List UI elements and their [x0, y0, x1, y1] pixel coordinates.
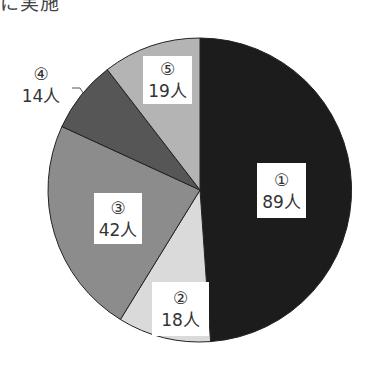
label-slice-3: ③ 42人 — [94, 193, 142, 244]
label-1-value: 89人 — [257, 191, 306, 213]
label-slice-1: ① 89人 — [257, 163, 306, 218]
label-slice-4: ④ 14人 — [16, 62, 66, 108]
label-4-value: 14人 — [16, 85, 66, 107]
label-slice-5: ⑤ 19人 — [143, 56, 192, 104]
label-2-value: 18人 — [152, 309, 209, 331]
label-5-marker: ⑤ — [143, 58, 192, 80]
label-slice-2: ② 18人 — [152, 282, 209, 336]
label-1-marker: ① — [257, 169, 306, 191]
label-3-marker: ③ — [94, 197, 142, 219]
label-4-marker: ④ — [16, 63, 66, 85]
label-3-value: 42人 — [94, 219, 142, 241]
label-5-value: 19人 — [143, 80, 192, 102]
label-2-marker: ② — [152, 287, 209, 309]
